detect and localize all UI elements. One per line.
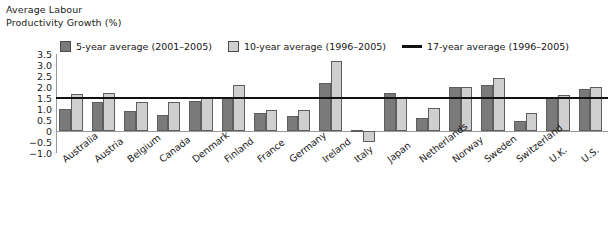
bar-10-year [428, 108, 440, 131]
bar-5-year [416, 118, 428, 131]
legend-label-10-year: 10-year average (1996–2005) [244, 41, 386, 52]
legend-swatch-light-icon [228, 41, 239, 52]
bar-5-year [319, 83, 331, 131]
bar-10-year [201, 98, 213, 131]
bar-5-year [254, 113, 266, 131]
bar-group [351, 54, 377, 153]
legend-label-17-year: 17-year average (1996–2005) [427, 41, 569, 52]
bar-5-year [189, 101, 201, 131]
bar-5-year [59, 109, 71, 131]
legend-swatch-dark-icon [60, 41, 71, 52]
bar-10-year [363, 131, 375, 142]
y-tick-label: 1.0 [37, 104, 56, 115]
bar-10-year [298, 110, 310, 131]
bar-10-year [168, 102, 180, 131]
y-tick-label: 2.5 [37, 71, 56, 82]
bar-10-year [396, 98, 408, 131]
bar-5-year [222, 98, 234, 131]
legend-line-icon [402, 45, 422, 48]
y-axis [56, 54, 57, 153]
bar-10-year [136, 102, 148, 131]
legend-item-10-year: 10-year average (1996–2005) [228, 41, 386, 52]
chart-legend: 5-year average (2001–2005) 10-year avera… [60, 41, 585, 52]
plot-area: 3.53.02.52.01.51.00.50−0.5−1.0 Australia… [56, 54, 608, 153]
y-tick-label: 2.0 [37, 82, 56, 93]
axis-title-line1: Average Labour [6, 3, 121, 16]
reference-line-17-year [56, 97, 608, 99]
bar-5-year [351, 130, 363, 132]
legend-item-5-year: 5-year average (2001–2005) [60, 41, 212, 52]
bar-10-year [266, 110, 278, 131]
y-tick-label: 0.5 [37, 115, 56, 126]
bar-5-year [124, 111, 136, 131]
y-tick-label: 3.0 [37, 60, 56, 71]
bar-10-year [493, 78, 505, 131]
y-tick-label: 1.5 [37, 93, 56, 104]
bar-5-year [92, 102, 104, 131]
axis-title: Average Labour Productivity Growth (%) [6, 3, 121, 29]
bar-5-year [514, 121, 526, 131]
legend-item-17-year: 17-year average (1996–2005) [402, 41, 569, 52]
bar-5-year [579, 89, 591, 131]
legend-label-5-year: 5-year average (2001–2005) [76, 41, 212, 52]
bar-5-year [481, 85, 493, 131]
axis-title-line2: Productivity Growth (%) [6, 16, 121, 29]
y-tick-label: −0.5 [29, 137, 56, 148]
chart-figure: Average Labour Productivity Growth (%) 5… [0, 0, 616, 229]
bar-10-year [233, 85, 245, 131]
bar-5-year [157, 115, 169, 132]
bar-10-year [331, 61, 343, 131]
bar-10-year [526, 113, 538, 131]
bar-group [579, 54, 605, 153]
y-tick-label: 3.5 [37, 49, 56, 60]
y-tick-label: −1.0 [29, 148, 56, 159]
y-tick-label: 0 [46, 126, 56, 137]
bar-10-year [590, 87, 602, 131]
bar-5-year [287, 116, 299, 131]
